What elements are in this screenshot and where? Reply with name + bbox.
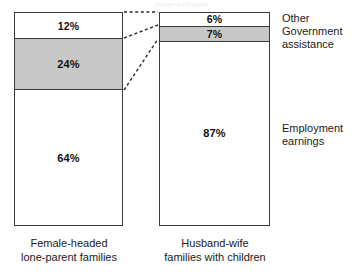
category-label-female-headed-lone-parent: Female-headed lone-parent families: [4, 236, 134, 264]
segment-right-other: 6%: [160, 13, 269, 26]
segment-label-right-employment-earnings: 87%: [203, 127, 226, 139]
legend-label-government-assistance: Government assistance: [282, 25, 343, 51]
legend-label-other: Other: [282, 12, 310, 25]
stacked-bar-chart-figure: percentage 12% 24% 64% 6% 7% 87% Other G…: [0, 0, 364, 278]
segment-right-government-assistance: 7%: [160, 26, 269, 41]
bar-husband-wife-families: 6% 7% 87%: [159, 12, 270, 226]
segment-label-right-other: 6%: [207, 13, 223, 25]
segment-right-employment-earnings: 87%: [160, 41, 269, 225]
legend-label-employment-earnings: Employment earnings: [282, 122, 343, 148]
segment-label-left-other: 12%: [58, 20, 80, 32]
category-label-husband-wife-families: Husband-wife families with children: [149, 236, 281, 264]
segment-left-employment-earnings: 64%: [15, 89, 122, 225]
segment-label-right-government-assistance: 7%: [207, 28, 223, 40]
segment-left-other: 12%: [15, 13, 122, 38]
connector-line-government-employment-boundary: [124, 39, 158, 90]
segment-label-left-employment-earnings: 64%: [57, 152, 80, 164]
segment-left-government-assistance: 24%: [15, 38, 122, 89]
bar-female-headed-lone-parent: 12% 24% 64%: [14, 12, 123, 226]
connector-line-other-government-boundary: [124, 25, 158, 38]
cut-off-title: percentage: [0, 0, 364, 7]
segment-label-left-government-assistance: 24%: [57, 58, 80, 70]
